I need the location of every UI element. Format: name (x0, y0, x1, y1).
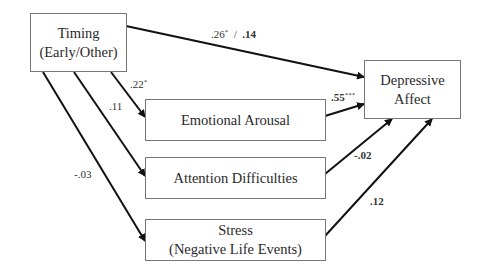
coef-sig: * (144, 78, 148, 86)
coef-value: -.02 (354, 149, 371, 161)
node-emotional-arousal-label: Emotional Arousal (181, 111, 290, 130)
node-depressive-affect: Depressive Affect (364, 60, 461, 119)
coef-emotional-to-depressive: .55*** (331, 91, 355, 103)
coef-value: -.03 (74, 168, 91, 180)
node-timing-label-2: (Early/Other) (39, 43, 117, 62)
arrow-attention-to-depressive (325, 119, 392, 174)
coef-value: .11 (109, 100, 122, 112)
arrow-stress-to-depressive (325, 119, 432, 236)
coef-separator: / (234, 28, 237, 40)
coef-direct: .14 (242, 28, 256, 40)
node-timing-label-1: Timing (57, 24, 99, 43)
coef-value: .12 (370, 195, 384, 207)
node-stress-label-2: (Negative Life Events) (169, 240, 302, 259)
node-timing: Timing (Early/Other) (30, 13, 127, 72)
coef-stress-to-depressive: .12 (370, 195, 384, 207)
coef-total: .26 (211, 28, 225, 40)
coef-timing-to-depressive: .26* / .14 (211, 28, 256, 40)
node-stress-label-1: Stress (218, 221, 253, 240)
coef-value: .55 (331, 91, 345, 103)
node-depressive-affect-label-1: Depressive (380, 71, 444, 90)
coef-value: .22 (130, 78, 144, 90)
coef-timing-to-emotional: .22* (130, 78, 147, 90)
coef-timing-to-attention: .11 (109, 100, 122, 112)
coef-timing-to-stress: -.03 (74, 168, 91, 180)
node-depressive-affect-label-2: Affect (394, 90, 431, 109)
node-attention-difficulties: Attention Difficulties (145, 157, 326, 199)
node-stress: Stress (Negative Life Events) (145, 219, 326, 261)
node-emotional-arousal: Emotional Arousal (145, 99, 326, 141)
arrow-emotional-to-depressive (325, 104, 364, 116)
coef-sig: *** (345, 91, 356, 99)
node-attention-difficulties-label: Attention Difficulties (173, 169, 297, 188)
coef-attention-to-depressive: -.02 (354, 149, 371, 161)
coef-total-sig: * (225, 28, 229, 36)
